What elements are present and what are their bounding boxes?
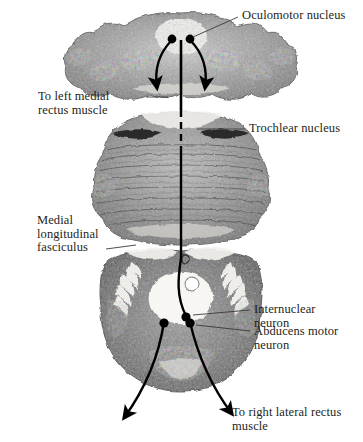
label-abducens-motor-neuron: Abducens motor neuron xyxy=(254,325,338,352)
leader-mlf xyxy=(106,245,136,249)
label-trochlear-nucleus: Trochlear nucleus xyxy=(249,122,340,136)
figure-canvas: Oculomotor nucleus To left medial rectus… xyxy=(0,0,363,442)
oculomotor-nucleus-right-dot xyxy=(186,35,195,44)
abducens-motor-neuron-right-dot xyxy=(185,318,194,327)
abducens-motor-neuron-left-dot xyxy=(159,318,168,327)
lower-pons-section xyxy=(100,248,262,392)
label-oculomotor-nucleus: Oculomotor nucleus xyxy=(242,9,346,23)
label-to-right-lateral-rectus: To right lateral rectus muscle xyxy=(232,406,341,433)
label-to-left-medial-rectus: To left medial rectus muscle xyxy=(38,90,109,117)
oculomotor-nucleus-left-dot xyxy=(168,35,177,44)
label-medial-longitudinal-fasciculus: Medial longitudinal fasciculus xyxy=(37,214,99,255)
